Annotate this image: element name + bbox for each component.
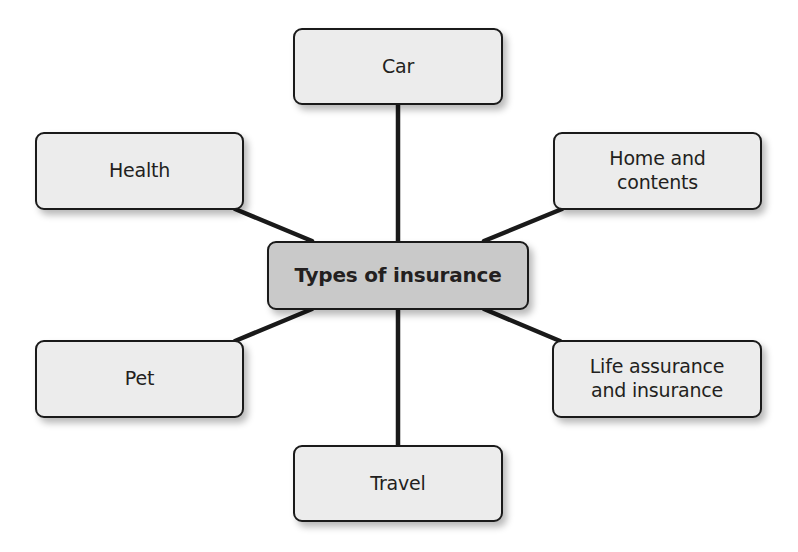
node-life-label: Life assurance and insurance — [590, 355, 725, 403]
central-node-label: Types of insurance — [294, 263, 501, 288]
node-travel-label: Travel — [370, 472, 425, 496]
connector-life — [484, 309, 560, 341]
node-travel: Travel — [293, 445, 503, 522]
node-health-label: Health — [109, 159, 170, 183]
connector-health — [235, 209, 312, 241]
node-pet: Pet — [35, 340, 244, 418]
connector-pet — [235, 309, 312, 341]
node-home-label: Home and contents — [609, 147, 705, 195]
node-pet-label: Pet — [125, 367, 154, 391]
node-types-of-insurance: Types of insurance — [267, 241, 529, 310]
node-home-and-contents: Home and contents — [553, 132, 762, 210]
connector-home — [484, 209, 562, 241]
node-life-assurance: Life assurance and insurance — [552, 340, 762, 418]
node-car-label: Car — [382, 55, 414, 79]
node-car: Car — [293, 28, 503, 105]
node-health: Health — [35, 132, 244, 210]
